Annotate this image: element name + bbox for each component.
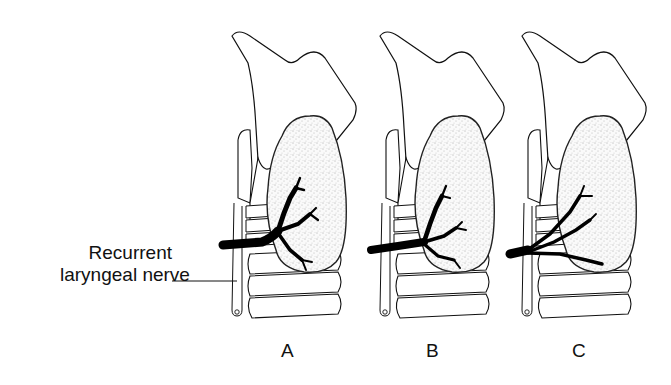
panel-label-c: C — [572, 340, 586, 362]
panel-c-larynx-illustration — [510, 32, 646, 318]
nerve-annotation-label: Recurrent laryngeal nerve — [60, 242, 172, 286]
nerve-label-line2: laryngeal nerve — [60, 264, 174, 286]
diagram-canvas — [0, 0, 671, 385]
panel-a-larynx-illustration — [223, 32, 356, 318]
panel-label-b: B — [426, 340, 439, 362]
panel-label-a: A — [281, 340, 294, 362]
nerve-label-line1: Recurrent — [60, 242, 172, 264]
panel-b-larynx-illustration — [371, 32, 504, 318]
